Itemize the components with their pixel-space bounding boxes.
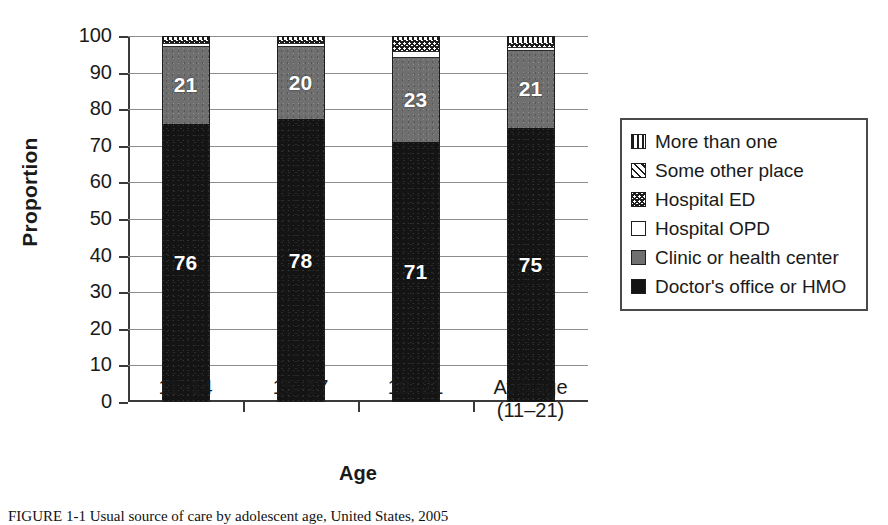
- bar-segment: [277, 40, 325, 44]
- bar-segment: [507, 47, 555, 51]
- checker-swatch: [631, 192, 646, 207]
- legend-item-label: More than one: [655, 131, 778, 153]
- bar-segment: 78: [277, 119, 325, 402]
- legend-item: Doctor's office or HMO: [631, 272, 857, 301]
- legend-item: More than one: [631, 127, 857, 156]
- y-tick-label: 50: [52, 207, 112, 230]
- bar-segment: [507, 43, 555, 47]
- bar-segment: 20: [277, 47, 325, 119]
- bar-segment: 23: [392, 58, 440, 142]
- bar-segment: [277, 43, 325, 47]
- figure-caption: FIGURE 1-1 Usual source of care by adole…: [8, 508, 880, 525]
- chart-legend: More than oneSome other placeHospital ED…: [620, 118, 868, 311]
- y-tick-label: 30: [52, 280, 112, 303]
- bar-segment: 75: [507, 128, 555, 403]
- x-axis-title: Age: [128, 462, 588, 485]
- y-axis-title: Proportion: [18, 122, 42, 262]
- y-tick-label: 70: [52, 134, 112, 157]
- bar-segment: 71: [392, 142, 440, 402]
- bar-value-label: 75: [507, 253, 555, 277]
- y-tick-label: 90: [52, 61, 112, 84]
- y-tick-label: 100: [52, 24, 112, 47]
- x-axis-tick: [243, 402, 245, 412]
- bar-segment: [162, 36, 210, 40]
- legend-item-label: Hospital ED: [655, 189, 755, 211]
- bar-column: 7621: [162, 36, 210, 402]
- bar-segment: [392, 40, 440, 51]
- y-axis-tick: [119, 146, 128, 148]
- bar-segment: [392, 51, 440, 58]
- y-tick-label: 10: [52, 353, 112, 376]
- white-swatch: [631, 221, 646, 236]
- vertical-stripes-swatch: [631, 134, 646, 149]
- y-axis-tick: [119, 256, 128, 258]
- legend-item: Hospital ED: [631, 185, 857, 214]
- x-tick-label: Average (11–21): [456, 376, 606, 422]
- bar-value-label: 23: [392, 88, 440, 112]
- y-axis-tick: [119, 365, 128, 367]
- legend-item-label: Some other place: [655, 160, 804, 182]
- y-tick-label: 0: [52, 390, 112, 413]
- bar-segment: [162, 43, 210, 47]
- bar-segment: [392, 36, 440, 40]
- bar-segment: 21: [162, 47, 210, 124]
- y-axis-tick: [119, 329, 128, 331]
- bar-segment: [507, 36, 555, 43]
- plot-area: 1009080706050403020100 7621782071237521: [128, 36, 588, 402]
- y-tick-label: 40: [52, 244, 112, 267]
- y-axis-tick: [119, 36, 128, 38]
- legend-item: Hospital OPD: [631, 214, 857, 243]
- bar-value-label: 71: [392, 260, 440, 284]
- bar-segment: [162, 40, 210, 44]
- y-axis-tick: [119, 402, 128, 404]
- bar-value-label: 76: [162, 251, 210, 275]
- legend-item-label: Hospital OPD: [655, 218, 770, 240]
- y-axis-tick: [119, 73, 128, 75]
- y-tick-label: 60: [52, 170, 112, 193]
- legend-item: Some other place: [631, 156, 857, 185]
- bar-column: 7123: [392, 36, 440, 402]
- y-axis-tick: [119, 109, 128, 111]
- y-axis-tick: [119, 219, 128, 221]
- bar-value-label: 21: [507, 77, 555, 101]
- x-axis-tick: [358, 402, 360, 412]
- diagonal-hatch-swatch: [631, 163, 646, 178]
- bar-value-label: 21: [162, 73, 210, 97]
- legend-item: Clinic or health center: [631, 243, 857, 272]
- bar-segment: 21: [507, 51, 555, 128]
- bar-segment: 76: [162, 124, 210, 402]
- black-swatch: [631, 279, 646, 294]
- gray-swatch: [631, 250, 646, 265]
- y-axis-tick: [119, 182, 128, 184]
- bar-column: 7521: [507, 36, 555, 402]
- bar-value-label: 20: [277, 71, 325, 95]
- legend-item-label: Doctor's office or HMO: [655, 276, 846, 298]
- bar-column: 7820: [277, 36, 325, 402]
- y-axis-tick: [119, 292, 128, 294]
- y-tick-label: 20: [52, 317, 112, 340]
- legend-item-label: Clinic or health center: [655, 247, 839, 269]
- bar-value-label: 78: [277, 249, 325, 273]
- bar-segment: [277, 36, 325, 40]
- y-tick-label: 80: [52, 97, 112, 120]
